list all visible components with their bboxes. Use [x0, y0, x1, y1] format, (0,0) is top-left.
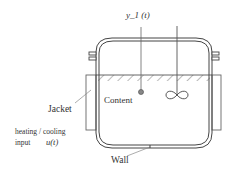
input-label-line1: heating / cooling — [15, 127, 66, 136]
flange-left — [89, 52, 96, 60]
jacket-right — [212, 75, 221, 130]
sensor-dot-icon — [139, 90, 144, 95]
input-symbol: u(t) — [46, 137, 58, 147]
vessel-wall-inner — [99, 41, 209, 145]
output-label: y_1 (t) — [125, 10, 150, 20]
jacket-leader-line — [75, 90, 91, 103]
vessel-wall-outer — [96, 38, 212, 148]
input-label-line2: input — [15, 138, 31, 147]
jacket-left — [86, 75, 96, 130]
wall-label: Wall — [111, 155, 129, 165]
flange-right — [212, 52, 219, 60]
jacket-label: Jacket — [48, 104, 72, 114]
reactor-diagram: y_1 (t) Content Jacket heating / cooling… — [0, 0, 227, 174]
liquid-surface-hatch — [98, 75, 210, 81]
content-label: Content — [104, 95, 133, 105]
